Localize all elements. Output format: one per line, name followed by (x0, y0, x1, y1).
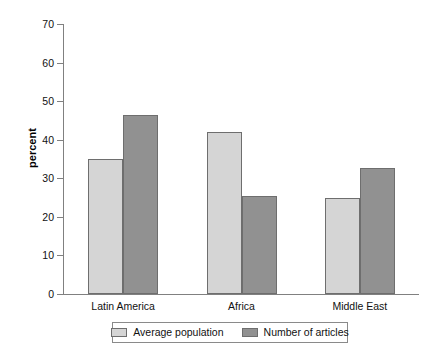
y-axis-tick-label: 50 (14, 96, 54, 106)
legend-swatch-icon-number-of-articles (242, 328, 258, 337)
bar (325, 198, 360, 294)
bar (88, 159, 123, 294)
y-axis-tick-label: 40 (14, 135, 54, 145)
y-axis-tick (57, 101, 63, 102)
bar (360, 168, 395, 294)
y-axis-tick (57, 255, 63, 256)
bar (123, 115, 158, 294)
x-axis-category-label: Middle East (300, 300, 420, 312)
plot-area (64, 24, 419, 294)
x-axis-category-label: Latin America (63, 300, 183, 312)
legend-label-number-of-articles: Number of articles (264, 327, 349, 338)
y-axis-tick (57, 140, 63, 141)
chart-legend: Average population Number of articles (112, 322, 348, 343)
bar (242, 196, 277, 294)
y-axis-tick (57, 24, 63, 25)
y-axis-tick-label: 10 (14, 250, 54, 260)
x-axis-category-label: Africa (182, 300, 302, 312)
y-axis-tick-label: 70 (14, 19, 54, 29)
y-axis-tick (57, 294, 63, 295)
y-axis-tick-label: 20 (14, 212, 54, 222)
y-axis-tick-label: 30 (14, 173, 54, 183)
legend-entry-average-population: Average population (111, 327, 223, 338)
x-axis-line (63, 294, 419, 295)
y-axis-tick-label: 0 (14, 289, 54, 299)
y-axis-tick (57, 217, 63, 218)
legend-swatch-icon-average-population (111, 328, 127, 337)
bar-chart: percent 010203040506070 Latin AmericaAfr… (0, 0, 430, 353)
y-axis-tick (57, 178, 63, 179)
bar (207, 132, 242, 294)
legend-entry-number-of-articles: Number of articles (242, 327, 349, 338)
y-axis-tick-label: 60 (14, 58, 54, 68)
y-axis-tick (57, 63, 63, 64)
legend-label-average-population: Average population (133, 327, 223, 338)
